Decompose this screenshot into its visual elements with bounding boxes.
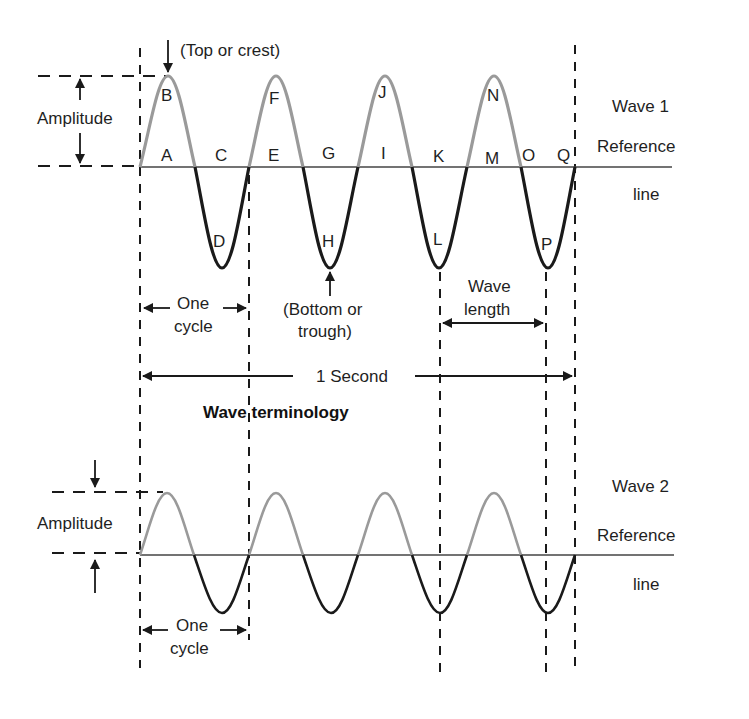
point-o: O <box>522 146 535 165</box>
point-h: H <box>322 232 334 251</box>
point-f: F <box>269 89 279 108</box>
wave1-reference-label-line2: line <box>633 185 659 204</box>
point-g: G <box>322 144 335 163</box>
wave1-reference-label-line1: Reference <box>597 137 675 156</box>
wave1-troughs <box>195 167 575 268</box>
point-e: E <box>268 146 279 165</box>
wavelength-label-line1: Wave <box>468 277 511 296</box>
point-q: Q <box>557 146 570 165</box>
point-i: I <box>381 144 386 163</box>
point-p: P <box>541 235 552 254</box>
point-d: D <box>213 232 225 251</box>
one-second-label: 1 Second <box>316 367 388 386</box>
wave2-reference-label-line2: line <box>633 575 659 594</box>
wave2-cycle-label-line2: cycle <box>170 639 209 658</box>
crest-label: (Top or crest) <box>180 41 280 60</box>
point-c: C <box>215 146 227 165</box>
trough-label-line1: (Bottom or <box>283 300 363 319</box>
figure-title: Wave terminology <box>203 403 349 422</box>
trough-label-line2: trough) <box>298 322 352 341</box>
wave2-troughs <box>194 555 575 613</box>
wave2-name-label: Wave 2 <box>612 477 669 496</box>
wave2-cycle-label-line1: One <box>176 616 208 635</box>
wave1-name-label: Wave 1 <box>612 97 669 116</box>
wave1-amplitude-label: Amplitude <box>37 109 113 128</box>
point-b: B <box>161 86 172 105</box>
point-k: K <box>433 147 445 166</box>
point-l: L <box>433 230 442 249</box>
wave-2: Amplitude One cycle Wave 2 Reference lin… <box>37 460 675 658</box>
wave-1: A B C D E F G H I J K L M N O P Q (Top o… <box>37 40 675 386</box>
point-j: J <box>378 83 387 102</box>
wavelength-label-line2: length <box>464 300 510 319</box>
wave2-amplitude-label: Amplitude <box>37 514 113 533</box>
point-m: M <box>485 149 499 168</box>
wave1-cycle-label-line2: cycle <box>174 317 213 336</box>
wave2-crests <box>140 493 521 555</box>
wave2-reference-label-line1: Reference <box>597 526 675 545</box>
wave-terminology-diagram: A B C D E F G H I J K L M N O P Q (Top o… <box>0 0 749 719</box>
point-a: A <box>161 146 173 165</box>
point-n: N <box>487 86 499 105</box>
wave1-cycle-label-line1: One <box>177 294 209 313</box>
